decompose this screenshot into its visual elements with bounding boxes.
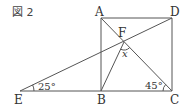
label-F: F — [118, 26, 126, 40]
angle-arc-E — [33, 85, 34, 91]
label-C: C — [170, 93, 179, 107]
angle-label-x: x — [122, 48, 128, 59]
label-A: A — [94, 5, 104, 19]
angle-arc-C — [163, 85, 166, 92]
label-B: B — [97, 93, 106, 107]
geometry-figure: 図 2 A D F E B C 25° 45° x — [0, 0, 194, 111]
figure-title: 図 2 — [12, 6, 34, 19]
angle-label-E: 25° — [38, 81, 56, 92]
label-E: E — [14, 93, 23, 107]
label-D: D — [170, 5, 180, 19]
angle-label-C: 45° — [145, 80, 163, 91]
